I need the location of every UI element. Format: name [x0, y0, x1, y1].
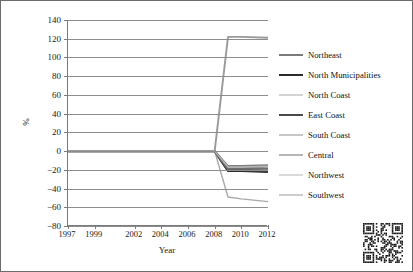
y-axis-tick-mark [64, 207, 68, 208]
y-axis-tick-label: −40 [1, 185, 61, 194]
y-axis-tick-label: −80 [1, 222, 61, 231]
x-axis-tick-label: 1997 [59, 229, 76, 239]
legend-line-icon [279, 130, 303, 140]
y-axis-tick-mark [64, 20, 68, 21]
legend-item[interactable]: North Municipalities [279, 65, 411, 85]
y-axis-tick-label: 20 [1, 128, 61, 137]
legend-label: East Coast [308, 110, 345, 120]
gridline [68, 95, 268, 96]
qr-code-image [363, 223, 403, 263]
x-axis-tick-label: 2004 [152, 229, 169, 239]
y-axis-tick-mark [64, 39, 68, 40]
legend-item[interactable]: East Coast [279, 105, 411, 125]
legend-label: Northeast [308, 50, 342, 60]
y-axis-tick-label: 120 [1, 35, 61, 44]
legend-item[interactable]: South Coast [279, 125, 411, 145]
legend-line-icon [279, 150, 303, 160]
chart-figure: % Year NortheastNorth MunicipalitiesNort… [0, 0, 413, 272]
gridline [68, 114, 268, 115]
gridline [68, 132, 268, 133]
x-axis-tick-label: 2012 [259, 229, 276, 239]
y-axis-tick-label: −20 [1, 166, 61, 175]
y-axis-tick-mark [64, 76, 68, 77]
legend-item[interactable]: Central [279, 145, 411, 165]
gridline [68, 151, 268, 152]
y-axis-tick-label: 60 [1, 91, 61, 100]
gridline [68, 189, 268, 190]
y-axis-tick-label: 140 [1, 16, 61, 25]
legend-label: Northwest [308, 170, 344, 180]
series-line [68, 151, 268, 166]
gridline [68, 207, 268, 208]
y-axis-tick-label: −60 [1, 203, 61, 212]
gridline [68, 76, 268, 77]
y-axis-tick-mark [64, 57, 68, 58]
y-axis-tick-mark [64, 132, 68, 133]
x-axis-tick-label: 1999 [85, 229, 102, 239]
y-axis-tick-label: 80 [1, 72, 61, 81]
legend: NortheastNorth MunicipalitiesNorth Coast… [279, 45, 411, 205]
series-line [68, 151, 268, 167]
y-axis-tick-mark [64, 114, 68, 115]
legend-line-icon [279, 170, 303, 180]
legend-item[interactable]: Northwest [279, 165, 411, 185]
y-axis-tick-mark [64, 151, 68, 152]
y-axis-tick-mark [64, 95, 68, 96]
legend-label: North Coast [308, 90, 350, 100]
legend-line-icon [279, 50, 303, 60]
legend-line-icon [279, 190, 303, 200]
gridline [68, 57, 268, 58]
y-axis-tick-label: 40 [1, 110, 61, 119]
x-axis-label: Year [67, 245, 267, 255]
y-axis-tick-mark [64, 189, 68, 190]
y-axis-tick-label: 0 [1, 147, 61, 156]
legend-line-icon [279, 90, 303, 100]
y-axis-tick-mark [64, 170, 68, 171]
gridline [68, 226, 268, 227]
x-axis-tick-label: 2010 [232, 229, 249, 239]
legend-item[interactable]: Southwest [279, 185, 411, 205]
series-line [68, 151, 268, 202]
series-lines [68, 20, 268, 226]
legend-line-icon [279, 110, 303, 120]
legend-item[interactable]: North Coast [279, 85, 411, 105]
plot-area [67, 20, 267, 226]
gridline [68, 39, 268, 40]
legend-label: North Municipalities [308, 70, 381, 80]
legend-line-icon [279, 70, 303, 80]
y-axis-tick-label: 100 [1, 53, 61, 62]
gridline [68, 170, 268, 171]
x-axis-tick-label: 2008 [205, 229, 222, 239]
x-axis-tick-label: 2006 [179, 229, 196, 239]
legend-item[interactable]: Northeast [279, 45, 411, 65]
legend-label: Southwest [308, 190, 344, 200]
x-axis-tick-label: 2002 [125, 229, 142, 239]
legend-label: Central [308, 150, 334, 160]
gridline [68, 20, 268, 21]
y-axis-label: % [21, 118, 31, 126]
legend-label: South Coast [308, 130, 350, 140]
